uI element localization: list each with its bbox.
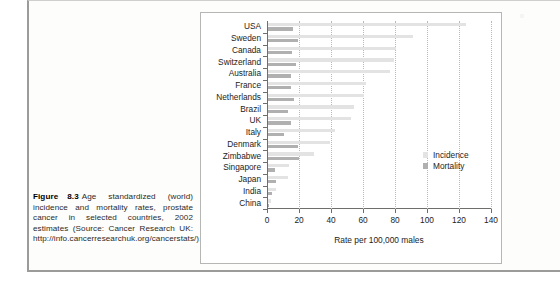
chart-y-tick [263,80,267,81]
chart-x-tick [459,209,460,213]
chart-y-tick [263,209,267,210]
chart-x-tick [395,209,396,213]
chart-bar-incidence [268,199,271,202]
caption-figure-word: Figure [33,192,58,201]
chart-bar-incidence [268,152,314,155]
chart-bar-mortality [268,110,288,113]
chart-gridline [459,21,460,209]
chart-x-tick [491,209,492,213]
chart-y-tick [263,56,267,57]
chart-x-tick-label: 60 [358,215,367,225]
chart-category-label: Switzerland [218,58,261,67]
chart-category-label: Denmark [227,140,261,149]
chart-gridline [491,21,492,209]
chart-x-tick-label: 140 [484,215,498,225]
legend-label-mortality: Mortality [433,161,464,171]
chart-gridline [427,21,428,209]
figure-caption: Figure8.3Age standardized (world) incide… [33,192,193,245]
chart-y-tick [263,45,267,46]
chart-y-tick [263,186,267,187]
chart-y-tick [263,68,267,69]
chart-y-tick [263,174,267,175]
chart-plot-area: 020406080100120140 [267,21,491,209]
chart-bar-mortality [268,204,269,207]
legend-swatch-mortality-icon [423,163,428,169]
chart-bar-incidence [268,58,394,61]
chart-y-tick [263,197,267,198]
chart-y-tick [263,150,267,151]
chart-category-label: Japan [238,175,261,184]
caption-text: Age standardized (world) incidence and m… [33,192,201,243]
chart-x-tick [267,209,268,213]
chart-category-label: Sweden [231,34,261,43]
chart-category-label: Canada [232,46,261,55]
chart-bar-mortality [268,86,291,89]
chart-plot-wrapper: USASwedenCanadaSwitzerlandAustraliaFranc… [201,13,501,263]
chart-y-tick [263,162,267,163]
chart-x-tick [427,209,428,213]
legend-item-mortality: Mortality [423,160,469,171]
chart-bar-mortality [268,157,299,160]
chart-x-tick-label: 0 [265,215,270,225]
chart-bar-incidence [268,70,390,73]
chart-bar-mortality [268,133,284,136]
chart-category-label: USA [244,22,261,31]
chart-bar-incidence [268,141,330,144]
chart-category-label: India [243,187,261,196]
chart-bar-incidence [268,188,276,191]
legend-label-incidence: Incidence [433,150,469,160]
chart-category-label: France [235,81,261,90]
chart-bar-incidence [268,94,364,97]
chart-category-label: UK [249,116,261,125]
page-left-margin [0,0,27,294]
chart-category-label: Brazil [240,105,261,114]
chart-bar-incidence [268,105,354,108]
chart-legend: Incidence Mortality [423,149,469,171]
chart-bar-mortality [268,98,294,101]
chart-category-label: Singapore [223,163,261,172]
chart-category-axis-labels: USASwedenCanadaSwitzerlandAustraliaFranc… [203,21,265,209]
chart-x-tick-label: 80 [390,215,399,225]
chart-y-tick [263,115,267,116]
chart-bar-mortality [268,51,292,54]
legend-item-incidence: Incidence [423,149,469,160]
chart-bar-mortality [268,168,275,171]
chart-bar-mortality [268,74,291,77]
page-scan: Figure8.3Age standardized (world) incide… [0,0,560,294]
chart-y-tick [263,139,267,140]
chart-bar-incidence [268,117,351,120]
chart-bar-mortality [268,121,291,124]
chart-y-tick [263,33,267,34]
chart-x-tick [299,209,300,213]
chart-category-label: Australia [229,69,261,78]
chart-category-label: Netherlands [216,93,261,102]
chart-y-tick [263,103,267,104]
chart-x-tick [363,209,364,213]
chart-x-tick-label: 100 [420,215,434,225]
chart-x-tick-label: 20 [294,215,303,225]
chart-category-label: Zimbabwe [223,152,261,161]
chart-bar-mortality [268,27,293,30]
chart-x-tick-label: 40 [326,215,335,225]
chart-bar-mortality [268,192,272,195]
chart-bar-incidence [268,47,396,50]
chart-bar-mortality [268,63,296,66]
caption-figure-number: 8.3 [67,192,79,201]
chart-category-label: Italy [246,128,261,137]
chart-bar-incidence [268,176,288,179]
legend-swatch-incidence-icon [423,152,428,158]
chart-bar-incidence [268,23,466,26]
chart-bar-mortality [268,180,276,183]
page-bottom-margin [0,272,560,294]
chart-y-tick [263,92,267,93]
chart-category-label: China [239,199,261,208]
chart-bar-incidence [268,129,335,132]
chart-bar-incidence [268,164,289,167]
chart-bar-mortality [268,39,298,42]
chart-x-tick-label: 120 [452,215,466,225]
chart-x-axis-title: Rate per 100,000 males [267,235,491,245]
figure-chart-box: USASwedenCanadaSwitzerlandAustraliaFranc… [200,12,502,264]
chart-y-tick [263,127,267,128]
chart-bar-mortality [268,145,298,148]
chart-x-tick [331,209,332,213]
